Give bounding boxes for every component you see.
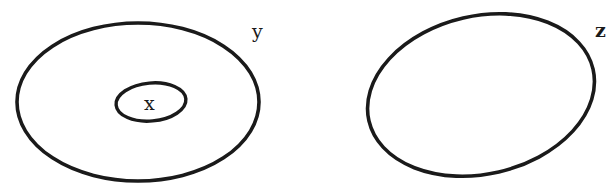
set-y: y — [17, 20, 263, 181]
set-y-label: y — [251, 20, 263, 42]
set-z-label: z — [595, 19, 606, 41]
set-z: z — [351, 0, 611, 194]
set-x: x — [114, 80, 187, 124]
set-y-ellipse — [17, 23, 259, 181]
set-x-label: x — [144, 92, 155, 114]
set-diagram: y x z — [0, 0, 616, 194]
set-z-ellipse — [351, 0, 611, 194]
